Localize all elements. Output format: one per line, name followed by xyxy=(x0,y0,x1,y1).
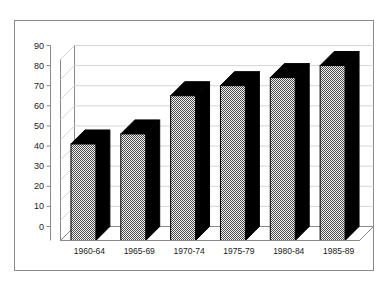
chart-plot-area xyxy=(0,0,391,286)
bar[interactable] xyxy=(121,120,160,241)
bar[interactable] xyxy=(270,64,309,241)
bar[interactable] xyxy=(220,72,259,241)
y-axis-tick-label: 30 xyxy=(22,161,44,171)
bar[interactable] xyxy=(71,130,110,241)
y-axis-tick-label: 0 xyxy=(22,222,44,232)
y-axis-tick-label: 20 xyxy=(22,181,44,191)
bar-chart-figure: 0102030405060708090 1960-641965-691970-7… xyxy=(0,0,391,286)
plot-group xyxy=(47,46,374,241)
y-axis-tick-label: 70 xyxy=(22,81,44,91)
y-axis-tick-label: 90 xyxy=(22,41,44,51)
y-axis-tick-label: 60 xyxy=(22,101,44,111)
y-axis-tick-label: 50 xyxy=(22,121,44,131)
x-axis-tick-label: 1970-74 xyxy=(165,246,213,256)
y-axis-tick-label: 80 xyxy=(22,61,44,71)
y-axis-tick-label: 10 xyxy=(22,201,44,211)
x-axis-tick-label: 1980-84 xyxy=(265,246,313,256)
y-axis xyxy=(47,46,51,241)
bar[interactable] xyxy=(171,82,210,241)
bar[interactable] xyxy=(320,52,359,241)
y-axis-tick-label: 40 xyxy=(22,141,44,151)
x-axis-tick-label: 1975-79 xyxy=(215,246,263,256)
x-axis-tick-label: 1965-69 xyxy=(115,246,163,256)
x-axis-tick-label: 1960-64 xyxy=(65,246,113,256)
x-axis-tick-label: 1985-89 xyxy=(315,246,363,256)
